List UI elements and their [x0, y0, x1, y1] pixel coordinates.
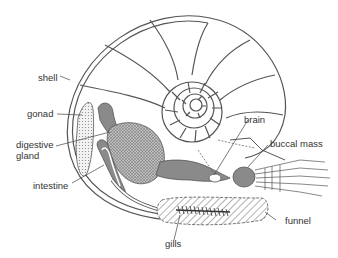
- buccal-mass-organ: [233, 167, 255, 187]
- label-brain: brain: [244, 114, 265, 125]
- label-funnel: funnel: [285, 215, 311, 226]
- label-shell: shell: [38, 72, 58, 83]
- gonad-organ: [76, 102, 94, 176]
- label-buccal-mass: buccal mass: [270, 138, 323, 149]
- label-gills: gills: [165, 238, 181, 249]
- label-intestine: intestine: [33, 180, 68, 191]
- tentacles: [255, 160, 330, 196]
- brain-organ: [209, 174, 221, 182]
- label-digestive-gland-line1: digestive: [16, 139, 54, 150]
- label-gonad: gonad: [27, 108, 53, 119]
- label-digestive-gland-line2: gland: [16, 150, 39, 161]
